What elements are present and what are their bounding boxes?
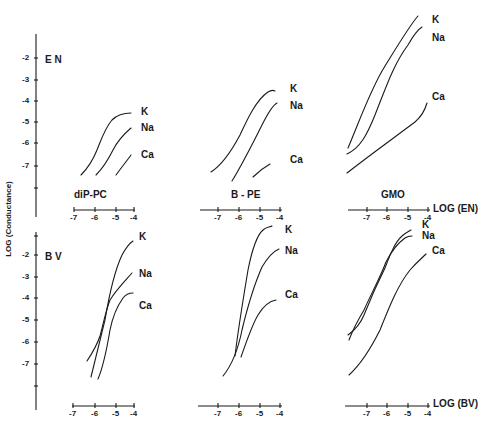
row-label-bv: B V <box>45 252 62 262</box>
x-tick: -4 <box>276 410 283 418</box>
ion-label-na: Na <box>290 101 303 111</box>
curve-en-gmo-ca <box>347 103 427 173</box>
y-tick-bottom-m7: -7 <box>22 360 29 368</box>
ion-label-na: Na <box>139 269 152 279</box>
x-tick: -7 <box>70 214 77 222</box>
x-tick: -5 <box>112 214 119 222</box>
ion-label-k: K <box>290 84 297 94</box>
x-tick: -5 <box>112 410 119 418</box>
curve-bv-bpe-na <box>223 249 279 376</box>
x-tick: -7 <box>363 214 370 222</box>
ion-label-ca: Ca <box>285 290 298 300</box>
panel-title-bpe: B - PE <box>231 190 260 200</box>
x-tick: -4 <box>276 214 283 222</box>
x-tick: -7 <box>69 410 76 418</box>
x-tick: -6 <box>235 410 242 418</box>
x-tick: -4 <box>130 214 137 222</box>
x-axis-top <box>74 207 430 212</box>
curve-bv-dippc-na <box>87 273 132 361</box>
y-tick-top-m5: -5 <box>22 118 29 126</box>
curve-en-bpe-ca <box>253 164 270 177</box>
ion-label-na: Na <box>285 246 298 256</box>
x-axis-bottom <box>72 403 430 408</box>
curve-bv-bpe-ca <box>241 300 276 357</box>
y-axis-top <box>34 34 38 217</box>
curve-bv-gmo-ca <box>349 254 426 375</box>
x-tick: -6 <box>383 410 390 418</box>
x-tick: -7 <box>214 214 221 222</box>
y-tick-bottom-m2: -2 <box>22 251 29 259</box>
x-tick: -5 <box>256 410 263 418</box>
ion-label-k: K <box>139 232 146 242</box>
x-tick: -5 <box>256 214 263 222</box>
curve-en-gmo-na <box>347 27 422 154</box>
y-tick-top-m3: -3 <box>22 76 29 84</box>
ion-label-ca: Ca <box>141 150 154 160</box>
x-tick: -6 <box>383 214 390 222</box>
ion-label-k: K <box>422 220 429 230</box>
y-tick-bottom-m4: -4 <box>22 294 29 302</box>
y-tick-top-m4: -4 <box>22 97 29 105</box>
x-tick: -4 <box>424 410 431 418</box>
x-tick: -6 <box>91 214 98 222</box>
y-tick-top-m7: -7 <box>22 162 29 170</box>
row-label-en: E N <box>45 55 62 65</box>
x-axis-label-en: LOG (EN) <box>433 204 478 214</box>
y-tick-bottom-m3: -3 <box>22 273 29 281</box>
ion-label-k: K <box>285 225 292 235</box>
curve-bv-dippc-k <box>91 241 133 377</box>
x-tick: -7 <box>214 410 221 418</box>
x-axis-label-bv: LOG (BV) <box>433 399 478 409</box>
ion-label-ca: Ca <box>139 301 152 311</box>
curve-bv-dippc-ca <box>98 293 133 379</box>
ion-label-ca: Ca <box>432 92 445 102</box>
curve-en-bpe-na <box>232 103 277 181</box>
ion-label-k: K <box>141 107 148 117</box>
panel-title-gmo: GMO <box>381 190 405 200</box>
x-tick: -6 <box>235 214 242 222</box>
x-tick: -5 <box>404 410 411 418</box>
panel-title-dippc: diP-PC <box>74 190 107 200</box>
ion-label-na: Na <box>141 123 154 133</box>
x-tick: -4 <box>130 410 137 418</box>
curve-en-dippc-na <box>96 128 131 175</box>
x-tick: -7 <box>363 410 370 418</box>
y-tick-bottom-m5: -5 <box>22 316 29 324</box>
ion-label-na: Na <box>422 231 435 241</box>
y-axis-bottom <box>34 232 38 410</box>
ion-label-k: K <box>432 15 439 25</box>
ion-label-na: Na <box>432 33 445 43</box>
x-tick: -5 <box>404 214 411 222</box>
ion-label-ca: Ca <box>290 155 303 165</box>
ion-label-ca: Ca <box>432 246 445 256</box>
x-tick: -6 <box>91 410 98 418</box>
y-axis-label: LOG (Conductance) <box>5 174 13 264</box>
y-tick-top-m6: -6 <box>22 139 29 147</box>
y-tick-top-m2: -2 <box>22 54 29 62</box>
y-tick-bottom-m6: -6 <box>22 338 29 346</box>
curve-en-bpe-k <box>211 90 275 172</box>
curve-en-dippc-ca <box>116 155 131 175</box>
